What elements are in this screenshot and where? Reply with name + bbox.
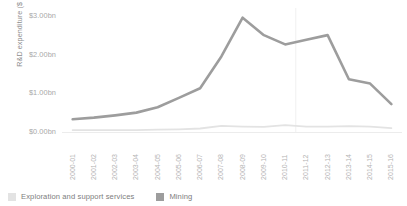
- x-tick-label: 2004-05: [154, 154, 161, 180]
- y-tick-label: $2.00bn: [4, 50, 56, 59]
- x-tick-label: 2009-10: [260, 154, 267, 180]
- x-tick-label: 2012-13: [324, 154, 331, 180]
- x-tick-label: 2014-15: [366, 154, 373, 180]
- x-tick-label: 2003-04: [132, 154, 139, 180]
- legend-item[interactable]: Exploration and support services: [8, 192, 134, 201]
- series-line-exploration-and-support-services: [73, 125, 392, 130]
- x-tick-label: 2015-16: [387, 154, 394, 180]
- x-tick-label: 2002-03: [111, 154, 118, 180]
- x-axis-tick-labels: 2000-012001-022002-032003-042004-052005-…: [62, 134, 402, 180]
- x-tick-label: 2006-07: [196, 154, 203, 180]
- chart-legend: Exploration and support servicesMining: [8, 192, 214, 201]
- x-tick-label: 2005-06: [175, 154, 182, 180]
- series-line-mining: [73, 18, 392, 120]
- legend-label: Exploration and support services: [21, 192, 134, 201]
- x-tick-label: 2008-09: [239, 154, 246, 180]
- legend-label: Mining: [169, 192, 192, 201]
- series-lines: [62, 8, 402, 132]
- x-tick-label: 2011-12: [302, 154, 309, 180]
- legend-swatch-icon: [156, 193, 164, 201]
- y-tick-label: $0.00bn: [4, 127, 56, 136]
- rd-expenditure-line-chart: R&D expenditure ($ billion) $0.00bn$1.00…: [0, 0, 407, 206]
- x-tick-label: 2010-11: [281, 154, 288, 180]
- plot-area: [62, 8, 402, 132]
- y-axis-tick-labels: $0.00bn$1.00bn$2.00bn$3.00bn: [0, 0, 56, 140]
- y-tick-label: $3.00bn: [4, 11, 56, 20]
- x-tick-label: 2000-01: [69, 154, 76, 180]
- x-tick-label: 2013-14: [345, 154, 352, 180]
- legend-swatch-icon: [8, 193, 16, 201]
- y-tick-label: $1.00bn: [4, 88, 56, 97]
- legend-item[interactable]: Mining: [156, 192, 192, 201]
- x-tick-label: 2007-08: [217, 154, 224, 180]
- x-axis-line: [62, 132, 402, 133]
- x-tick-label: 2001-02: [90, 154, 97, 180]
